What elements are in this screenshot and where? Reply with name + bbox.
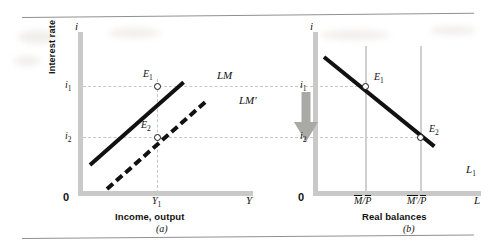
panel-b-label-e2: E2 bbox=[429, 124, 439, 137]
money-supply-line-1 bbox=[365, 46, 367, 192]
panel-b: L1 E1 E2 i i1 i2 0 M/P M′/P L R bbox=[255, 24, 493, 230]
panel-b-y-axis-var: i bbox=[310, 21, 313, 32]
panel-a-x-axis bbox=[78, 191, 253, 196]
panel-a-x-axis-title: Income, output bbox=[115, 212, 184, 222]
panel-a-y-axis bbox=[78, 32, 83, 196]
panel-a-y-axis-title: Interest rate bbox=[48, 20, 57, 74]
money-supply-line-2 bbox=[420, 46, 422, 192]
panel-b-gridline-i2 bbox=[255, 137, 423, 138]
panel-a: LM LM′ E1 E2 i i1 i2 0 Y1 Y Interest rat… bbox=[10, 24, 255, 230]
panel-b-point-e2 bbox=[417, 134, 424, 141]
panel-a-caption: (a) bbox=[156, 224, 168, 234]
panel-b-x-axis bbox=[313, 191, 481, 196]
money-demand-curve-label: L1 bbox=[466, 164, 476, 178]
economics-figure: LM LM′ E1 E2 i i1 i2 0 Y1 Y Interest rat… bbox=[0, 0, 496, 246]
panel-b-origin: 0 bbox=[298, 192, 304, 203]
lm-curve bbox=[89, 81, 185, 167]
panel-b-x-axis-var: L bbox=[474, 195, 480, 206]
panel-a-tick-i1: i1 bbox=[65, 80, 72, 93]
lm-curve-label: LM bbox=[217, 70, 232, 81]
panel-b-label-e1: E1 bbox=[374, 72, 384, 85]
panel-b-gridline-i1 bbox=[255, 86, 368, 87]
panel-b-caption: (b) bbox=[403, 224, 415, 234]
panel-b-tick-money-supply-2: M′/P bbox=[407, 195, 426, 207]
panel-a-point-e2 bbox=[154, 134, 161, 141]
panel-a-y-axis-var: i bbox=[75, 21, 78, 32]
panel-a-x-axis-var: Y bbox=[246, 195, 252, 206]
panel-a-label-e2: E2 bbox=[141, 120, 151, 133]
panel-a-label-e1: E1 bbox=[143, 69, 153, 82]
panel-b-tick-i1: i1 bbox=[300, 80, 307, 93]
panel-a-origin: 0 bbox=[63, 192, 69, 203]
panel-b-tick-i2: i2 bbox=[300, 131, 307, 144]
panel-b-x-axis-title: Real balances bbox=[362, 212, 427, 222]
panel-b-tick-money-supply-1: M/P bbox=[354, 195, 371, 207]
panel-a-tick-y1: Y1 bbox=[152, 196, 161, 209]
panel-a-tick-i2: i2 bbox=[65, 131, 72, 144]
panel-a-point-e1 bbox=[154, 83, 161, 90]
panel-b-point-e1 bbox=[362, 83, 369, 90]
top-rule bbox=[22, 13, 474, 18]
bottom-rule bbox=[22, 234, 474, 239]
panel-a-gridline-i1 bbox=[83, 86, 253, 87]
